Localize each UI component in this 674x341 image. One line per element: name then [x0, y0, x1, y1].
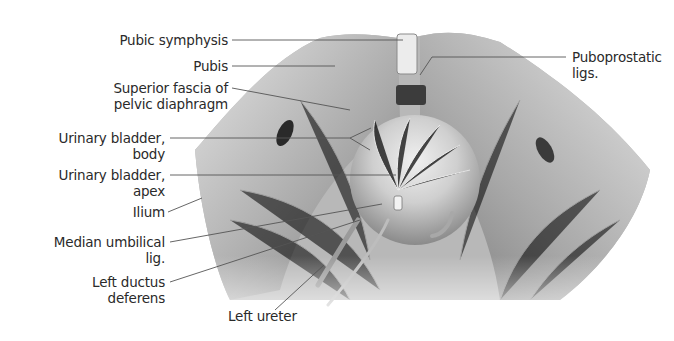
label-text: Left ductus	[92, 274, 165, 290]
label-text: Left ureter	[228, 308, 297, 324]
label-median-umbilical: Median umbilical lig.	[54, 234, 165, 266]
label-text: Urinary bladder,	[58, 130, 165, 146]
label-text: body	[58, 146, 165, 162]
label-text: Superior fascia of	[113, 80, 228, 96]
label-text: Pubis	[193, 58, 228, 74]
label-text: ligs.	[572, 65, 662, 81]
label-left-ureter: Left ureter	[228, 308, 297, 324]
label-text: lig.	[54, 250, 165, 266]
label-text: pelvic diaphragm	[113, 96, 228, 112]
label-text: Urinary bladder,	[58, 167, 165, 183]
label-text: Pubic symphysis	[119, 32, 228, 48]
label-text: Puboprostatic	[572, 49, 662, 65]
label-text: apex	[58, 183, 165, 199]
label-text: deferens	[92, 290, 165, 306]
anatomy-figure: Pubic symphysis Pubis Superior fascia of…	[0, 0, 674, 341]
label-puboprostatic: Puboprostatic ligs.	[572, 49, 662, 81]
label-text: Median umbilical	[54, 234, 165, 250]
label-text: Ilium	[133, 204, 165, 220]
label-bladder-body: Urinary bladder, body	[58, 130, 165, 162]
label-pubis: Pubis	[193, 58, 228, 74]
label-ilium: Ilium	[133, 204, 165, 220]
label-left-ductus: Left ductus deferens	[92, 274, 165, 306]
label-superior-fascia: Superior fascia of pelvic diaphragm	[113, 80, 228, 112]
label-pubic-symphysis: Pubic symphysis	[119, 32, 228, 48]
label-bladder-apex: Urinary bladder, apex	[58, 167, 165, 199]
